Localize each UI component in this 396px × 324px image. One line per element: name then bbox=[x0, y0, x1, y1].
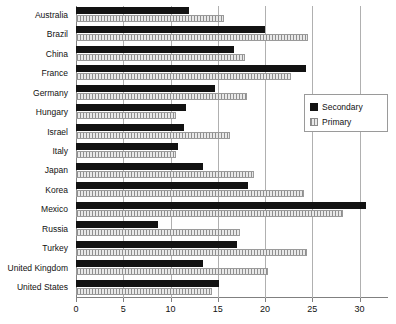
y-label-united-kingdom: United Kingdom bbox=[8, 264, 68, 273]
y-label-hungary: Hungary bbox=[36, 108, 68, 117]
bar-primary-israel bbox=[76, 132, 230, 139]
bar-row bbox=[76, 279, 388, 298]
bar-secondary-korea bbox=[76, 182, 248, 189]
y-label-korea: Korea bbox=[45, 186, 68, 195]
bar-row bbox=[76, 6, 388, 25]
bar-primary-australia bbox=[76, 15, 224, 22]
legend-item-secondary: Secondary bbox=[310, 99, 382, 114]
y-axis-category-labels: AustraliaBrazilChinaFranceGermanyHungary… bbox=[0, 6, 72, 298]
legend-swatch-secondary-icon bbox=[310, 103, 318, 111]
y-label-germany: Germany bbox=[33, 89, 68, 98]
x-axis: 051015202530 bbox=[76, 298, 388, 320]
bar-secondary-mexico bbox=[76, 202, 366, 209]
legend-label-secondary: Secondary bbox=[322, 102, 363, 112]
x-ticklabel-5: 5 bbox=[121, 304, 126, 314]
y-label-australia: Australia bbox=[35, 11, 68, 20]
y-label-brazil: Brazil bbox=[47, 30, 68, 39]
legend-label-primary: Primary bbox=[322, 117, 351, 127]
bar-secondary-united-kingdom bbox=[76, 260, 203, 267]
bar-row bbox=[76, 259, 388, 278]
bar-row bbox=[76, 201, 388, 220]
bar-secondary-france bbox=[76, 65, 306, 72]
bar-primary-united-states bbox=[76, 288, 212, 295]
bar-primary-brazil bbox=[76, 34, 308, 41]
x-ticklabel-25: 25 bbox=[307, 304, 317, 314]
bar-row bbox=[76, 64, 388, 83]
bar-secondary-italy bbox=[76, 143, 178, 150]
x-ticklabel-15: 15 bbox=[213, 304, 223, 314]
bar-primary-germany bbox=[76, 93, 247, 100]
x-tickmark-30 bbox=[360, 298, 361, 302]
bar-primary-china bbox=[76, 54, 245, 61]
bar-primary-russia bbox=[76, 229, 240, 236]
y-label-turkey: Turkey bbox=[42, 244, 68, 253]
legend-item-primary: Primary bbox=[310, 114, 382, 129]
bar-row bbox=[76, 220, 388, 239]
bar-primary-hungary bbox=[76, 112, 176, 119]
x-ticklabel-20: 20 bbox=[260, 304, 270, 314]
x-tickmark-15 bbox=[218, 298, 219, 302]
bar-secondary-china bbox=[76, 46, 234, 53]
bar-row bbox=[76, 142, 388, 161]
y-label-china: China bbox=[46, 50, 68, 59]
x-tickmark-5 bbox=[123, 298, 124, 302]
x-ticklabel-10: 10 bbox=[166, 304, 176, 314]
bar-row bbox=[76, 181, 388, 200]
y-label-russia: Russia bbox=[42, 225, 68, 234]
x-tickmark-25 bbox=[312, 298, 313, 302]
bar-primary-japan bbox=[76, 171, 254, 178]
bar-secondary-united-states bbox=[76, 280, 219, 287]
y-label-france: France bbox=[42, 69, 68, 78]
bar-secondary-turkey bbox=[76, 241, 237, 248]
y-label-israel: Israel bbox=[47, 128, 68, 137]
bar-primary-korea bbox=[76, 190, 304, 197]
bar-secondary-germany bbox=[76, 85, 215, 92]
bar-rows bbox=[76, 6, 388, 298]
bar-secondary-russia bbox=[76, 221, 158, 228]
bar-secondary-brazil bbox=[76, 26, 265, 33]
bar-row bbox=[76, 240, 388, 259]
bar-row bbox=[76, 162, 388, 181]
bar-chart: AustraliaBrazilChinaFranceGermanyHungary… bbox=[0, 0, 396, 324]
y-label-italy: Italy bbox=[52, 147, 68, 156]
legend: Secondary Primary bbox=[304, 94, 388, 132]
y-label-united-states: United States bbox=[17, 283, 68, 292]
bar-primary-italy bbox=[76, 151, 176, 158]
x-tickmark-20 bbox=[265, 298, 266, 302]
x-ticklabel-30: 30 bbox=[355, 304, 365, 314]
y-label-japan: Japan bbox=[45, 166, 68, 175]
bar-primary-united-kingdom bbox=[76, 268, 268, 275]
bar-primary-mexico bbox=[76, 210, 343, 217]
x-tickmark-0 bbox=[76, 298, 77, 302]
y-label-mexico: Mexico bbox=[41, 205, 68, 214]
bar-row bbox=[76, 45, 388, 64]
bar-row bbox=[76, 25, 388, 44]
bar-primary-france bbox=[76, 73, 291, 80]
bar-secondary-hungary bbox=[76, 104, 186, 111]
bar-secondary-japan bbox=[76, 163, 203, 170]
x-tickmark-10 bbox=[171, 298, 172, 302]
x-ticklabel-0: 0 bbox=[73, 304, 78, 314]
bar-primary-turkey bbox=[76, 249, 307, 256]
bar-secondary-australia bbox=[76, 7, 189, 14]
plot-area bbox=[76, 6, 388, 298]
legend-swatch-primary-icon bbox=[310, 118, 318, 126]
bar-secondary-israel bbox=[76, 124, 184, 131]
